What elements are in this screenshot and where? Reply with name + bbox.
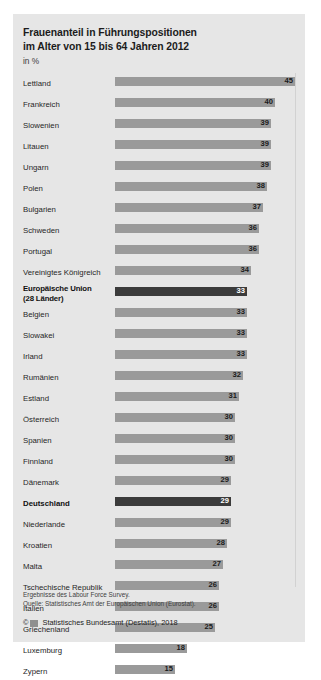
bar-track: 29 bbox=[115, 514, 305, 535]
chart-footer: Ergebnisse des Labour Force Survey. Quel… bbox=[23, 590, 297, 628]
bar-row-label: Slowenien bbox=[23, 121, 115, 131]
bar-row: Ungarn39 bbox=[13, 157, 305, 178]
bar-value-label: 34 bbox=[233, 265, 249, 274]
bar bbox=[115, 245, 259, 254]
infographic-panel: Frauenanteil in Führungspositionen im Al… bbox=[13, 14, 305, 642]
bar bbox=[115, 329, 247, 338]
bar-value-label: 40 bbox=[257, 97, 273, 106]
bar-row-label: Schweden bbox=[23, 226, 115, 236]
bar bbox=[115, 266, 251, 275]
bar-value-label: 33 bbox=[229, 328, 245, 337]
bar-track: 30 bbox=[115, 430, 305, 451]
bar-row: Estland31 bbox=[13, 388, 305, 409]
copyright-line: © Statistisches Bundesamt (Destatis), 20… bbox=[23, 618, 297, 628]
bar-value-label: 27 bbox=[205, 559, 221, 568]
bar-value-label: 36 bbox=[241, 223, 257, 232]
bar-track: 40 bbox=[115, 94, 305, 115]
bar-value-label: 30 bbox=[217, 454, 233, 463]
bar-row-label: Europäische Union (28 Länder) bbox=[23, 284, 115, 303]
bar-row-label: Finnland bbox=[23, 457, 115, 467]
bar-track: 34 bbox=[115, 262, 305, 283]
bar-row: Zypern15 bbox=[13, 661, 305, 680]
bar-value-label: 33 bbox=[229, 286, 245, 295]
bar-row-label: Deutschland bbox=[23, 499, 115, 509]
bar-row-label: Slowakei bbox=[23, 331, 115, 341]
bar bbox=[115, 182, 267, 191]
bar-track: 36 bbox=[115, 220, 305, 241]
bar-row-label: Zypern bbox=[23, 667, 115, 677]
bar bbox=[115, 350, 247, 359]
bar-row: Kroatien28 bbox=[13, 535, 305, 556]
bar-row-label: Niederlande bbox=[23, 520, 115, 530]
bar-track: 29 bbox=[115, 472, 305, 493]
bar bbox=[115, 287, 247, 296]
bar-row: Deutschland29 bbox=[13, 493, 305, 514]
bar-track: 37 bbox=[115, 199, 305, 220]
bar-track: 39 bbox=[115, 115, 305, 136]
bar-track: 33 bbox=[115, 325, 305, 346]
bar-track: 30 bbox=[115, 451, 305, 472]
bar-value-label: 33 bbox=[229, 307, 245, 316]
bar-row: Irland33 bbox=[13, 346, 305, 367]
bar-row: Finnland30 bbox=[13, 451, 305, 472]
bar-row: Litauen39 bbox=[13, 136, 305, 157]
bar-track: 32 bbox=[115, 367, 305, 388]
bar-row-label: Österreich bbox=[23, 415, 115, 425]
bar-value-label: 37 bbox=[245, 202, 261, 211]
bar-track: 39 bbox=[115, 136, 305, 157]
bar-track: 33 bbox=[115, 304, 305, 325]
chart-title-line-2: im Alter von 15 bis 64 Jahren 2012 bbox=[23, 40, 305, 54]
bar-chart-plot: Lettland45Frankreich40Slowenien39Litauen… bbox=[13, 73, 305, 591]
bar-row-label: Vereinigtes Königreich bbox=[23, 268, 115, 278]
bar-value-label: 38 bbox=[249, 181, 265, 190]
bar-value-label: 26 bbox=[201, 580, 217, 589]
bar-row: Portugal36 bbox=[13, 241, 305, 262]
bar-row-label: Luxemburg bbox=[23, 646, 115, 656]
bar bbox=[115, 98, 275, 107]
bar-row: Bulgarien37 bbox=[13, 199, 305, 220]
bar bbox=[115, 224, 259, 233]
bar-value-label: 32 bbox=[225, 370, 241, 379]
bar-track: 15 bbox=[115, 661, 305, 680]
bar-row: Malta27 bbox=[13, 556, 305, 577]
bar-row: Belgien33 bbox=[13, 304, 305, 325]
bar-track: 29 bbox=[115, 493, 305, 514]
bar bbox=[115, 77, 295, 86]
bar-value-label: 39 bbox=[253, 139, 269, 148]
bar-track: 39 bbox=[115, 157, 305, 178]
bar bbox=[115, 203, 263, 212]
bar-value-label: 15 bbox=[157, 664, 173, 673]
bar-row: Luxemburg18 bbox=[13, 640, 305, 661]
bar-row: Lettland45 bbox=[13, 73, 305, 94]
bar-row-label: Irland bbox=[23, 352, 115, 362]
bar-row-label: Bulgarien bbox=[23, 205, 115, 215]
bar-value-label: 36 bbox=[241, 244, 257, 253]
bar-row-label: Kroatien bbox=[23, 541, 115, 551]
bar-row-label: Ungarn bbox=[23, 163, 115, 173]
bar-value-label: 45 bbox=[277, 76, 293, 85]
bar-track: 45 bbox=[115, 73, 305, 94]
bar-track: 28 bbox=[115, 535, 305, 556]
bar-row: Spanien30 bbox=[13, 430, 305, 451]
bar-row-label: Litauen bbox=[23, 142, 115, 152]
bar-value-label: 31 bbox=[221, 391, 237, 400]
source-line-2: Quelle: Statistisches Amt der Europäisch… bbox=[23, 599, 297, 608]
bar-track: 30 bbox=[115, 409, 305, 430]
bar-row-label: Frankreich bbox=[23, 100, 115, 110]
bar-value-label: 30 bbox=[217, 412, 233, 421]
bar-row: Dänemark29 bbox=[13, 472, 305, 493]
bar-row-label: Malta bbox=[23, 562, 115, 572]
bar-row: Frankreich40 bbox=[13, 94, 305, 115]
bar-row: Europäische Union (28 Länder)33 bbox=[13, 283, 305, 304]
bar-row: Niederlande29 bbox=[13, 514, 305, 535]
bar bbox=[115, 308, 247, 317]
bar bbox=[115, 161, 271, 170]
bar-track: 33 bbox=[115, 283, 305, 304]
chart-header: Frauenanteil in Führungspositionen im Al… bbox=[13, 14, 305, 67]
bar-row-label: Rumänien bbox=[23, 373, 115, 383]
bar-row-label: Spanien bbox=[23, 436, 115, 446]
bar-track: 18 bbox=[115, 640, 305, 661]
bar bbox=[115, 371, 243, 380]
bar-row-label: Lettland bbox=[23, 79, 115, 89]
bar-track: 38 bbox=[115, 178, 305, 199]
